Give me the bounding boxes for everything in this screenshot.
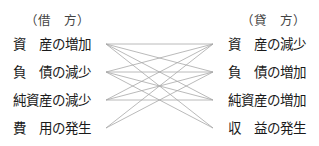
connector-lines — [0, 0, 319, 146]
